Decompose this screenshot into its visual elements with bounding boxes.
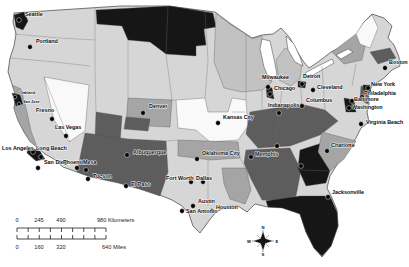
city-label-houston: Houston [216, 204, 238, 210]
city-dot-detroit [300, 82, 305, 87]
city-label-new-york: New York [371, 81, 395, 87]
city-dot-tucson [86, 177, 91, 182]
city-dot-cleveland [311, 88, 316, 93]
city-label-jacksonville: Jacksonville [332, 189, 364, 195]
city-label-cleveland: Cleveland [317, 84, 342, 90]
city-label-charlotte: Charlotte [331, 142, 355, 148]
city-dot-las-vegas [64, 134, 69, 139]
city-dot-denver [141, 111, 146, 116]
city-label-albuquerque: Albuquerque [133, 149, 166, 155]
city-label-baltimore: Baltimore [354, 96, 379, 102]
city-dot-san-diego [36, 166, 41, 171]
city-label-washington: Washington [352, 104, 383, 110]
city-dot-jacksonville [326, 195, 331, 200]
city-dot-long-beach [39, 155, 44, 160]
city-label-el-paso: El Paso [131, 181, 151, 187]
city-label-oakland: Oakland [20, 91, 36, 95]
region-south-colorado [124, 117, 150, 131]
city-dot-san-antonio [180, 209, 185, 214]
city-dot-washington [347, 106, 352, 111]
city-dot-indianapolis [277, 111, 282, 116]
scale-label-miles-3: 640 Miles [102, 244, 126, 250]
city-label-kansas-city: Kansas City [223, 114, 254, 120]
city-dot-boston [383, 66, 388, 71]
city-label-dallas: Dallas [196, 175, 212, 181]
city-label-columbus: Columbus [306, 97, 332, 103]
city-label-oklahoma-city: Oklahoma City [202, 150, 240, 156]
city-dot-albuquerque [125, 153, 130, 158]
city-dot-kansas-city [216, 121, 221, 126]
city-label-milwaukee: Milwaukee [262, 74, 289, 80]
city-label-memphis: Memphis [255, 151, 278, 157]
scale-bar: 0245490980 Kilometers0160320640 Miles [15, 217, 134, 250]
compass-letter-s: S [262, 252, 265, 257]
city-label-virginia-beach: Virginia Beach [366, 119, 403, 125]
city-label-los-angeles: Los Angeles [2, 145, 34, 151]
city-dot-chicago [268, 92, 273, 97]
city-label-detroit: Detroit [303, 73, 321, 79]
city-label-long-beach: Long Beach [36, 145, 67, 151]
city-dot-columbus [300, 104, 305, 109]
city-dot-oakland [13, 95, 17, 99]
city-label-indianapolis: Indianapolis [268, 102, 299, 108]
scale-label-km-2: 490 [56, 217, 65, 223]
scale-bar-km: 0245490980 Kilometers [15, 217, 134, 232]
city-dot-phoenix [75, 166, 80, 171]
region-florida [266, 196, 338, 256]
scale-label-miles-1: 160 [34, 244, 43, 250]
city-dot-oklahoma-city [195, 157, 200, 162]
scale-label-miles-2: 320 [56, 244, 65, 250]
city-label-las-vegas: Las Vegas [55, 124, 81, 130]
city-label-san-jose: San Jose [23, 100, 40, 104]
city-label-san-antonio: San Antonio [186, 208, 218, 214]
city-dot-el-paso [124, 184, 129, 189]
scale-label-km-0: 0 [15, 217, 18, 223]
city-label-austin: Austin [198, 198, 215, 204]
city-dot-mesa [84, 168, 89, 173]
city-dot-milwaukee [266, 85, 271, 90]
city-label-fresno: Fresno [36, 107, 55, 113]
city-dot-virginia-beach [359, 122, 364, 127]
scale-label-miles-0: 0 [15, 244, 18, 250]
city-label-portland: Portland [36, 38, 58, 44]
city-dot-san-jose [17, 102, 21, 106]
scale-label-km-1: 245 [34, 217, 43, 223]
city-dot-fresno [50, 117, 55, 122]
map-canvas: SeattlePortlandOaklandSan JoseFresnoLas … [0, 0, 409, 267]
scale-bar-miles: 0160320640 Miles [15, 235, 126, 250]
city-dot-unlabeled-2 [299, 164, 304, 169]
city-label-boston: Boston [389, 59, 408, 65]
city-dot-seattle [17, 18, 22, 23]
city-label-phoenix: Phoenix [63, 159, 84, 165]
city-label-denver: Denver [149, 103, 168, 109]
city-label-mesa: Mesa [83, 159, 97, 165]
scale-label-km-3: 980 Kilometers [97, 217, 135, 223]
city-dot-memphis [249, 155, 254, 160]
city-label-chicago: Chicago [274, 85, 296, 91]
city-dot-portland [28, 45, 33, 50]
compass-star-icon [253, 231, 273, 251]
compass-rose: NESW [247, 225, 279, 257]
compass-letter-e: E [276, 239, 279, 244]
city-label-fort-worth: Fort Worth [166, 175, 193, 181]
compass-letter-w: W [247, 239, 251, 244]
city-label-seattle: Seattle [25, 11, 43, 17]
compass-letter-n: N [261, 225, 264, 230]
us-cities-choropleth-map: SeattlePortlandOaklandSan JoseFresnoLas … [0, 0, 409, 267]
city-label-tucson: Tucson [93, 173, 112, 179]
city-dot-unlabeled-1 [275, 144, 280, 149]
city-dot-charlotte [325, 149, 330, 154]
